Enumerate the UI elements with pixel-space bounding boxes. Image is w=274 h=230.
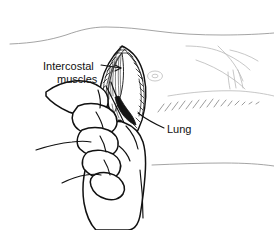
label-intercostal-line2: muscles: [57, 73, 98, 85]
trunk-contour-lower: [152, 163, 274, 166]
label-lung: Lung: [167, 123, 191, 135]
axilla-fold-4: [196, 60, 245, 89]
chest-contour-top: [10, 27, 274, 44]
axilla-fold-1: [186, 46, 250, 70]
axilla-fold-7: [228, 72, 230, 89]
axilla-fold-3: [230, 50, 258, 61]
chest-landmark: [148, 71, 163, 81]
label-intercostal-line1: Intercostal: [43, 60, 94, 72]
thoracotomy-figure: Intercostal muscles Lung: [0, 0, 274, 230]
rib-hatch-marks: [158, 99, 259, 112]
flank-shade: [168, 91, 274, 96]
axilla-fold-2: [218, 46, 243, 81]
illustration-canvas: Intercostal muscles Lung: [0, 0, 274, 230]
